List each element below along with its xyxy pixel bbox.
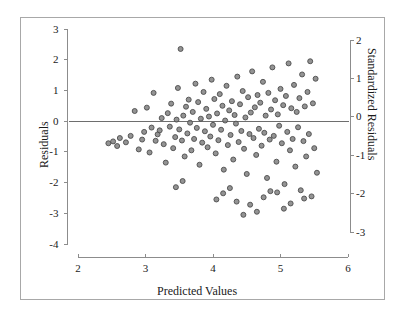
- data-point: [287, 148, 292, 153]
- data-point: [296, 125, 301, 130]
- data-point: [260, 79, 265, 84]
- data-point: [239, 128, 244, 133]
- data-point: [216, 138, 221, 143]
- data-point: [202, 129, 207, 134]
- data-point: [217, 92, 222, 97]
- data-point: [285, 129, 290, 134]
- data-point: [115, 144, 120, 149]
- data-point: [270, 65, 275, 70]
- data-point: [205, 145, 210, 150]
- data-point: [256, 126, 261, 131]
- data-point: [198, 116, 203, 121]
- data-point: [219, 127, 224, 132]
- data-point: [289, 106, 294, 111]
- data-point: [302, 196, 307, 201]
- data-point: [262, 130, 267, 135]
- data-point: [213, 151, 218, 156]
- data-point: [188, 120, 193, 125]
- y-axis-left-tick-label: -4: [41, 239, 59, 250]
- data-point: [215, 111, 220, 116]
- data-point: [310, 101, 315, 106]
- data-point: [243, 115, 248, 120]
- data-point: [136, 147, 141, 152]
- data-point: [201, 89, 206, 94]
- data-point: [277, 123, 282, 128]
- data-point: [117, 136, 122, 141]
- data-point: [258, 100, 263, 105]
- data-point: [305, 89, 310, 94]
- data-point: [123, 140, 128, 145]
- data-point: [233, 121, 238, 126]
- data-point: [209, 77, 214, 82]
- data-point: [292, 82, 297, 87]
- data-point: [301, 139, 306, 144]
- data-point: [298, 188, 303, 193]
- x-axis-title: Predicted Values: [157, 285, 237, 297]
- data-point: [153, 138, 158, 143]
- data-point: [263, 113, 268, 118]
- x-axis-tick-label: 4: [204, 263, 222, 274]
- data-point: [196, 100, 201, 105]
- data-point: [232, 113, 237, 118]
- data-point: [190, 109, 195, 114]
- data-point: [312, 146, 317, 151]
- data-point: [220, 103, 225, 108]
- data-point: [147, 150, 152, 155]
- y-axis-left-title: Residuals: [38, 121, 50, 168]
- data-point: [159, 116, 164, 121]
- data-point: [297, 96, 302, 101]
- data-point: [221, 167, 226, 172]
- data-point: [192, 136, 197, 141]
- data-point: [173, 185, 178, 190]
- data-point: [288, 201, 293, 206]
- data-point: [227, 186, 232, 191]
- x-axis-tick-label: 5: [272, 263, 290, 274]
- data-point: [254, 209, 259, 214]
- data-point: [254, 152, 259, 157]
- data-point: [255, 93, 260, 98]
- data-point: [261, 195, 266, 200]
- data-point: [259, 143, 264, 148]
- scatter-plot-canvas: [0, 0, 408, 323]
- data-point: [294, 109, 299, 114]
- data-point: [106, 141, 111, 146]
- residual-plot-figure: 3210-1-2-3-4 210-1-2-3 23456 Residuals S…: [0, 0, 408, 323]
- data-point: [163, 160, 168, 165]
- data-point: [179, 138, 184, 143]
- data-point: [212, 97, 217, 102]
- data-point: [224, 83, 229, 88]
- data-point: [227, 108, 232, 113]
- data-point: [132, 109, 137, 114]
- data-point: [286, 61, 291, 66]
- data-point: [206, 114, 211, 119]
- data-point: [304, 154, 309, 159]
- data-point: [185, 131, 190, 136]
- data-point: [189, 148, 194, 153]
- data-point: [300, 72, 305, 77]
- data-point: [281, 103, 286, 108]
- data-point: [313, 76, 318, 81]
- data-point: [200, 140, 205, 145]
- data-point: [281, 206, 286, 211]
- data-point: [182, 154, 187, 159]
- data-point: [274, 159, 279, 164]
- data-point: [174, 117, 179, 122]
- data-point: [246, 95, 251, 100]
- data-point: [278, 86, 283, 91]
- data-point: [271, 133, 276, 138]
- data-point: [248, 202, 253, 207]
- data-point: [234, 199, 239, 204]
- data-point: [169, 101, 174, 106]
- data-point: [171, 146, 176, 151]
- data-point: [241, 212, 246, 217]
- data-point: [177, 127, 182, 132]
- data-point: [235, 74, 240, 79]
- x-axis-tick-label: 2: [69, 263, 87, 274]
- data-point: [282, 182, 287, 187]
- y-axis-left-tick-label: 2: [41, 54, 59, 65]
- data-point: [293, 164, 298, 169]
- data-point: [193, 81, 198, 86]
- data-point: [306, 132, 311, 137]
- y-axis-left-tick-label: 1: [41, 85, 59, 96]
- data-point: [142, 129, 147, 134]
